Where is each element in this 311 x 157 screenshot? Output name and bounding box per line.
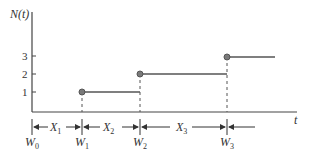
arrival-label-w2: W2 xyxy=(133,135,147,151)
y-tick-label-3: 3 xyxy=(22,50,28,62)
y-axis-label: N(t) xyxy=(9,7,29,21)
arrival-label-w3: W3 xyxy=(220,135,234,151)
jump-dot-2 xyxy=(137,71,143,77)
y-tick-label-1: 1 xyxy=(22,86,28,98)
y-tick-label-2: 2 xyxy=(22,68,28,80)
x-axis-label: t xyxy=(294,113,298,127)
jump-dot-3 xyxy=(224,54,230,60)
arrival-label-w1: W1 xyxy=(75,135,89,151)
arrival-label-w0: W0 xyxy=(25,135,39,151)
counting-process-diagram: N(t) t 3 2 1 X1 X2 X3 W0 W1 W2 W3 xyxy=(0,0,311,157)
interval-label-x2: X2 xyxy=(102,120,114,136)
interval-label-x3: X3 xyxy=(175,120,187,136)
interval-label-x1: X1 xyxy=(49,120,61,136)
jump-dot-1 xyxy=(79,89,85,95)
